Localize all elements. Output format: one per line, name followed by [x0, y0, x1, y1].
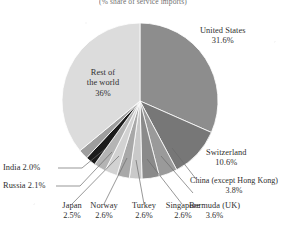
slice-label-india-name: India 2.0% — [3, 163, 40, 172]
slice-label-norway: Norway 2.6% — [82, 201, 126, 220]
slice-label-rest-line1: Rest of — [91, 68, 115, 77]
slice-label-russia: Russia 2.1% — [3, 181, 45, 191]
slice-label-rest-line2: the world — [87, 78, 119, 87]
slice-label-china-pct: 3.8% — [190, 186, 278, 196]
slice-label-switzerland-pct: 10.6% — [206, 158, 247, 168]
slice-label-united-states-pct: 31.6% — [200, 36, 246, 46]
slice-label-rest-of-world: Rest of the world 36% — [72, 68, 134, 99]
slice-label-norway-pct: 2.6% — [82, 211, 126, 221]
slice-label-turkey-name: Turkey — [132, 201, 156, 210]
slice-label-switzerland-name: Switzerland — [206, 148, 247, 157]
slice-label-china-name: China (except Hong Kong) — [190, 176, 278, 185]
pie-chart-figure: (% share of service imports) United Stat… — [0, 0, 286, 232]
slice-label-japan-name: Japan — [62, 201, 81, 210]
slice-label-united-states-name: United States — [200, 26, 246, 35]
slice-label-singapore-name: Singapore — [166, 201, 200, 210]
pie-slice-group — [62, 23, 218, 179]
slice-label-united-states: United States 31.6% — [200, 26, 246, 45]
slice-label-india: India 2.0% — [3, 163, 40, 173]
slice-label-norway-name: Norway — [90, 201, 117, 210]
slice-label-singapore: Singapore 2.6% — [157, 201, 209, 220]
slice-label-russia-name: Russia 2.1% — [3, 181, 45, 190]
slice-label-rest-pct: 36% — [95, 89, 111, 98]
slice-label-singapore-pct: 2.6% — [157, 211, 209, 221]
slice-label-china: China (except Hong Kong) 3.8% — [190, 176, 278, 195]
slice-label-switzerland: Switzerland 10.6% — [206, 148, 247, 167]
